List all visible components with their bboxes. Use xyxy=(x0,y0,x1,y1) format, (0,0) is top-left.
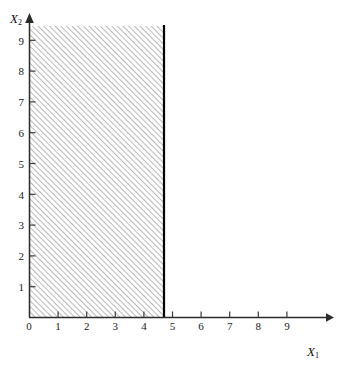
x-axis-label-main: X xyxy=(307,344,315,359)
y-tick-label-4: 4 xyxy=(10,189,24,201)
y-tick-label-8: 8 xyxy=(10,65,24,77)
feasible-region-shading xyxy=(30,26,164,317)
y-axis-label-subscript: 2 xyxy=(18,18,22,27)
x-axis-label: X1 xyxy=(307,344,319,360)
x-axis-arrowhead xyxy=(326,313,334,322)
y-tick-label-2: 2 xyxy=(10,250,24,262)
x-tick-label-5: 5 xyxy=(165,320,181,332)
x-tick-label-3: 3 xyxy=(107,320,123,332)
y-tick-label-9: 9 xyxy=(10,35,24,47)
y-tick-label-5: 5 xyxy=(10,158,24,170)
y-axis-arrowhead xyxy=(25,13,34,23)
plot-svg xyxy=(0,0,339,369)
x-tick-label-6: 6 xyxy=(193,320,209,332)
chart-screenshot: 0 1 2 3 4 5 6 7 8 9 1 2 3 4 5 6 7 8 9 X1… xyxy=(0,0,339,369)
y-tick-label-6: 6 xyxy=(10,127,24,139)
x-tick-label-7: 7 xyxy=(222,320,238,332)
x-axis-label-subscript: 1 xyxy=(315,351,319,360)
x-tick-label-4: 4 xyxy=(136,320,152,332)
y-tick-label-3: 3 xyxy=(10,219,24,231)
x-tick-label-8: 8 xyxy=(250,320,266,332)
plot-area: 0 1 2 3 4 5 6 7 8 9 1 2 3 4 5 6 7 8 9 X1… xyxy=(0,0,339,369)
y-tick-label-1: 1 xyxy=(10,281,24,293)
x-tick-label-2: 2 xyxy=(79,320,95,332)
y-tick-label-7: 7 xyxy=(10,96,24,108)
x-tick-label-9: 9 xyxy=(279,320,295,332)
y-axis-label: X2 xyxy=(10,11,22,27)
x-tick-label-1: 1 xyxy=(50,320,66,332)
x-tick-label-0: 0 xyxy=(21,320,37,332)
y-axis-label-main: X xyxy=(10,11,18,26)
